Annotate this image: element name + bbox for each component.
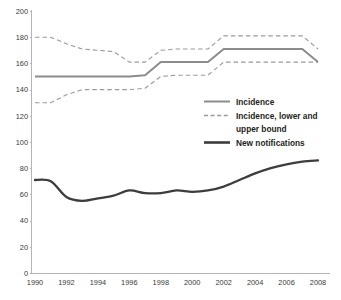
- y-tick-label: 160: [16, 59, 28, 68]
- y-tick-label: 140: [16, 85, 28, 94]
- series-new-notifications: [35, 160, 318, 201]
- y-axis-tick-labels: 020406080100120140160180200: [16, 7, 28, 278]
- x-axis-tick-labels: 1990199219941996199820002002200420062008: [27, 278, 326, 287]
- legend-label-notifications: New notifications: [236, 138, 305, 148]
- x-tick-label: 2004: [247, 278, 263, 287]
- chart-container: 020406080100120140160180200 199019921994…: [0, 0, 341, 300]
- legend-label-bounds-line2: upper bound: [236, 124, 287, 134]
- x-tick-label: 1990: [27, 278, 43, 287]
- y-tick-label: 120: [16, 112, 28, 121]
- y-tick-label: 80: [20, 164, 28, 173]
- y-tick-label: 0: [24, 269, 28, 278]
- x-tick-label: 1992: [58, 278, 74, 287]
- y-tick-label: 180: [16, 33, 28, 42]
- legend-label-bounds-line1: Incidence, lower and: [236, 111, 318, 121]
- y-tick-label: 200: [16, 7, 28, 16]
- x-tick-label: 1996: [121, 278, 137, 287]
- x-tick-label: 1998: [153, 278, 169, 287]
- x-tick-label: 1994: [90, 278, 106, 287]
- x-tick-label: 2000: [184, 278, 200, 287]
- y-tick-label: 20: [20, 243, 28, 252]
- series-incidence-lower-bound: [35, 62, 318, 103]
- x-tick-label: 2008: [310, 278, 326, 287]
- chart-legend: Incidence Incidence, lower and upper bou…: [204, 97, 318, 148]
- x-tick-label: 2002: [215, 278, 231, 287]
- line-chart: 020406080100120140160180200 199019921994…: [0, 0, 341, 300]
- y-tick-label: 100: [16, 138, 28, 147]
- x-tick-label: 2006: [278, 278, 294, 287]
- legend-label-incidence: Incidence: [236, 97, 275, 107]
- y-tick-label: 40: [20, 216, 28, 225]
- series-incidence: [35, 49, 318, 77]
- y-tick-label: 60: [20, 190, 28, 199]
